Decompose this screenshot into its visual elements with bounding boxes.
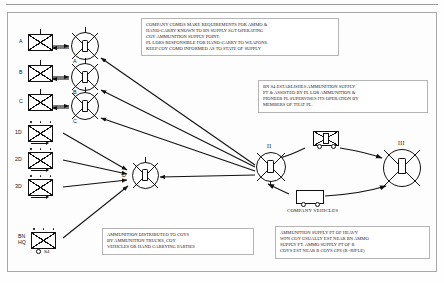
unit-stem-b [40,60,41,65]
unit-stem-c [40,89,41,94]
unit-symbol-2d [28,152,53,169]
distribution-note: AMMUNITION DISTRIBUTED TO COYS BY AMMUNI… [102,228,254,255]
supply-point-regiment-ammo-icon [398,158,406,174]
supply-point-c-ammo-icon [82,100,88,112]
bn-s4-note: BN S4 ESTABLISHES AMMUNITION SUPPLY PT &… [258,80,428,113]
echelon-marker-regiment: III [398,140,405,146]
supply-point-battalion-ammo-icon [267,160,274,173]
unit-mobility-bar-2d [31,170,47,171]
unit-label-hq: HQ [18,240,26,245]
supply-point-battalion-stem [270,181,271,186]
supply-point-d-ammo-icon [142,169,148,181]
note-line: COYS EST NEAR R COYS CPS (R=RIFLE) [280,248,425,254]
company-vehicles-label: COMPANY VEHICLES [287,208,338,213]
ammunition-truck-upper [313,131,339,146]
unit-symbol-bn-hq [31,232,56,249]
unit-dots-1d [30,121,51,123]
unit-symbol-company-b [28,65,53,82]
unit-mobility-bar-1d [31,143,47,144]
supply-point-a-stem [85,27,86,33]
note-line: MEMBERS OF THAT PL. [263,102,423,108]
unit-stem-a [40,29,41,34]
unit-label-2d: 2D [15,157,22,162]
diagram-page: A B C 1D 2D 3D BN HQ S4 A [0,0,444,283]
unit-label-company-c: C [19,99,23,104]
supply-point-c-stem [85,87,86,93]
bn-hq-marking: S4 [44,249,49,254]
unit-dots-2d [30,148,51,150]
note-line: KEEP COY COMD INFORMED AS TO STATE OF SU… [146,46,334,52]
company-vehicle-truck [296,190,324,204]
bn-hq-wheel-icon [36,249,41,254]
supply-point-b-stem [85,58,86,64]
company-comds-note: COMPANY COMDS MAKE REQUIREMENTS FOR AMMO… [141,18,339,56]
supply-point-b-ammo-icon [82,71,88,83]
supply-point-label-c: C [73,118,77,124]
unit-mobility-bar-3d [31,197,47,198]
unit-symbol-company-c [28,94,53,111]
supply-point-label-d: D [122,172,126,178]
heavy-wpn-note: AMMUNITION SUPPLY PT OF HEAVY WPN COY US… [275,226,430,259]
unit-label-3d: 3D [15,184,22,189]
unit-symbol-company-a [28,34,53,51]
unit-dots-3d [30,175,51,177]
unit-dots-bn-hq [33,228,54,230]
unit-label-1d: 1D [15,130,22,135]
echelon-marker-battalion: II [267,143,272,149]
supply-point-a-ammo-icon [82,40,88,52]
unit-label-company-a: A [19,39,22,44]
unit-symbol-1d [28,125,53,142]
unit-label-company-b: B [19,70,22,75]
note-line: VEHICLES OR HAND CARRYING PARTIES [107,244,249,250]
unit-symbol-3d [28,179,53,196]
supply-point-d-stem [145,157,146,163]
